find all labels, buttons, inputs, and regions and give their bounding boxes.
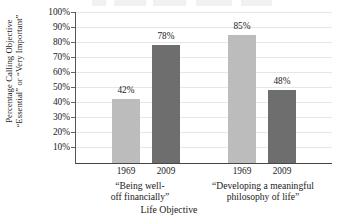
xtick-label-group2-1969: 1969 xyxy=(220,167,264,176)
group-label-1-line1: “Being well- xyxy=(88,180,192,191)
bar-group2-1969[interactable] xyxy=(228,35,256,163)
group-label-being-well-off: “Being well- off financially” xyxy=(88,180,192,203)
bar-value-group2-2009: 48% xyxy=(262,77,302,86)
xtick-label-group1-2009: 2009 xyxy=(144,167,188,176)
bar-value-group1-2009: 78% xyxy=(146,32,186,41)
bar-group2-2009[interactable] xyxy=(268,90,296,162)
bar-value-group2-1969: 85% xyxy=(222,22,262,31)
group-label-philosophy-of-life: “Developing a meaningful philosophy of l… xyxy=(190,180,336,203)
x-axis-title: Life Objective xyxy=(0,205,338,215)
bar-group1-2009[interactable] xyxy=(152,45,180,162)
bar-value-group1-1969: 42% xyxy=(106,86,146,95)
xtick-label-group1-1969: 1969 xyxy=(104,167,148,176)
group-label-2-line2: philosophy of life” xyxy=(190,191,336,202)
bar-group1-1969[interactable] xyxy=(112,99,140,162)
bar-chart: 100% 90% 80% 70% 60% 50% 40% 30% 20% 10%… xyxy=(0,0,338,221)
xtick-label-group2-2009: 2009 xyxy=(260,167,304,176)
group-label-2-line1: “Developing a meaningful xyxy=(190,180,336,191)
group-label-1-line2: off financially” xyxy=(88,191,192,202)
